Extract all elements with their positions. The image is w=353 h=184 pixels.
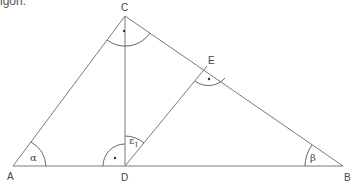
angle-arc-right-d (103, 144, 125, 166)
segment-cb (125, 16, 343, 166)
right-angle-dot-e (208, 78, 210, 80)
vertex-label-b: B (344, 172, 351, 183)
angle-label-alpha: α (30, 152, 37, 163)
vertex-label-c: C (121, 2, 128, 13)
angle-arc-right-c (107, 33, 150, 46)
right-angle-dot-c (123, 30, 125, 32)
segment-ac (13, 16, 125, 166)
triangle-diagram: α β ε1 C A D B E (0, 0, 353, 184)
vertex-label-d: D (121, 172, 128, 183)
segment-de (125, 66, 207, 166)
vertex-label-a: A (7, 171, 14, 182)
angle-label-beta: β (310, 152, 316, 163)
angle-label-epsilon1: ε1 (129, 135, 139, 149)
vertex-label-e: E (208, 55, 215, 66)
right-angle-dot-d (114, 157, 116, 159)
